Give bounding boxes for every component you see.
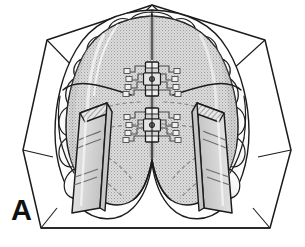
- figure-panel-label: A: [11, 196, 32, 225]
- expansion-screw-anterior: [144, 62, 161, 96]
- expansion-screw-posterior: [144, 108, 161, 142]
- figure-illustration: [0, 0, 305, 247]
